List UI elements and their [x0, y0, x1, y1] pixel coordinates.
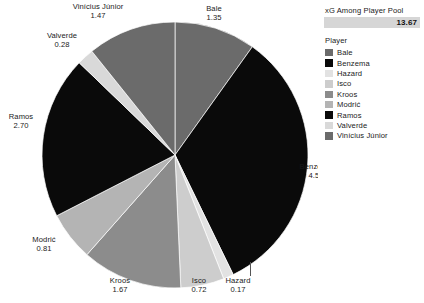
pie-slice-label-value: 1.35: [206, 14, 222, 23]
pie-slice-label-value: 0.81: [32, 245, 55, 254]
legend-item[interactable]: Modrić: [325, 99, 423, 109]
legend-item-label: Bale: [337, 48, 353, 57]
legend-swatch-icon: [325, 132, 333, 140]
legend-swatch-icon: [325, 59, 333, 67]
pie-slice-label: Isco0.72: [191, 277, 206, 295]
legend-item[interactable]: Isco: [325, 79, 423, 89]
xg-card-title: xG Among Player Pool: [324, 6, 420, 17]
pie-slice-label: Ramos2.70: [9, 113, 34, 131]
pie-slice-label-value: 0.72: [191, 286, 206, 295]
pie-slice-label: Kroos1.67: [110, 277, 130, 295]
legend-swatch-icon: [325, 70, 333, 78]
pie-slice-label: Bale1.35: [206, 5, 222, 23]
xg-value-text: 13.67: [396, 18, 417, 27]
pie-slice-label-value: 0.17: [225, 286, 250, 295]
legend-item-label: Modrić: [337, 100, 360, 109]
legend-swatch-icon: [325, 101, 333, 109]
legend-swatch-icon: [325, 122, 333, 130]
legend-item-label: Ramos: [337, 111, 362, 120]
legend-item[interactable]: Bale: [325, 48, 423, 58]
xg-value-bar: 13.67: [324, 17, 420, 28]
legend-item[interactable]: Vinícius Júnior: [325, 131, 423, 141]
legend-swatch-icon: [325, 80, 333, 88]
legend: Player BaleBenzemaHazardIscoKroosModrićR…: [325, 36, 423, 141]
legend-item[interactable]: Hazard: [325, 68, 423, 78]
xg-summary-card: xG Among Player Pool 13.67: [324, 6, 420, 28]
legend-item-label: Valverde: [337, 121, 367, 130]
legend-item-label: Kroos: [337, 90, 357, 99]
pie-chart-area: Bale1.35Benzema4.50Hazard0.17Isco0.72Kro…: [0, 0, 318, 303]
legend-title: Player: [325, 36, 423, 45]
legend-item-label: Vinícius Júnior: [337, 131, 388, 140]
pie-slice-label: Valverde0.28: [47, 32, 77, 50]
legend-item-label: Isco: [337, 79, 351, 88]
legend-swatch-icon: [325, 49, 333, 57]
right-panel: xG Among Player Pool 13.67 Player BaleBe…: [318, 0, 424, 303]
legend-swatch-icon: [325, 111, 333, 119]
legend-item[interactable]: Ramos: [325, 110, 423, 120]
label-leader-line: [250, 262, 251, 276]
pie-slice-label-value: 2.70: [9, 122, 34, 131]
legend-item-label: Benzema: [337, 59, 370, 68]
legend-item[interactable]: Kroos: [325, 89, 423, 99]
pie-slice-label: Vinícius Júnior1.47: [73, 3, 124, 21]
pie-slice-label-value: 0.28: [47, 41, 77, 50]
pie-slice-label-value: 1.67: [110, 286, 130, 295]
legend-item[interactable]: Valverde: [325, 120, 423, 130]
legend-swatch-icon: [325, 91, 333, 99]
legend-item-label: Hazard: [337, 69, 362, 78]
pie-slice-label: Hazard0.17: [225, 277, 250, 295]
pie-slice-label-value: 1.47: [73, 12, 124, 21]
pie-slice-label: Modrić0.81: [32, 236, 55, 254]
legend-item[interactable]: Benzema: [325, 58, 423, 68]
legend-items: BaleBenzemaHazardIscoKroosModrićRamosVal…: [325, 48, 423, 142]
